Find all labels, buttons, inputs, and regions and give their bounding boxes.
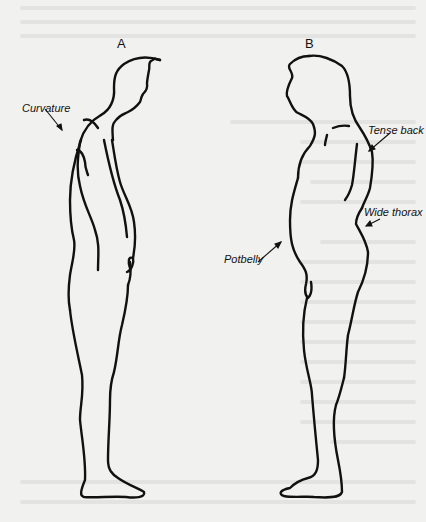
figure-a-arm-front bbox=[112, 140, 135, 258]
figure-b-arm bbox=[345, 144, 357, 200]
figure-a-back bbox=[78, 115, 101, 270]
figure-a-head-front bbox=[112, 59, 160, 140]
figure-b-thorax-buttock bbox=[344, 208, 368, 378]
figure-b-leg-front bbox=[281, 298, 344, 497]
figure-b-shoulder bbox=[333, 126, 349, 128]
figure-b-head bbox=[287, 56, 315, 178]
posture-figures bbox=[0, 0, 426, 522]
figure-b-belly bbox=[290, 178, 312, 298]
figure-a-back-lower bbox=[69, 140, 82, 310]
wide-thorax-arrowhead bbox=[366, 221, 372, 226]
figure-b-chest-mark bbox=[325, 135, 327, 145]
figure-a-leg-back bbox=[70, 285, 144, 497]
figure-b-back bbox=[309, 56, 373, 208]
